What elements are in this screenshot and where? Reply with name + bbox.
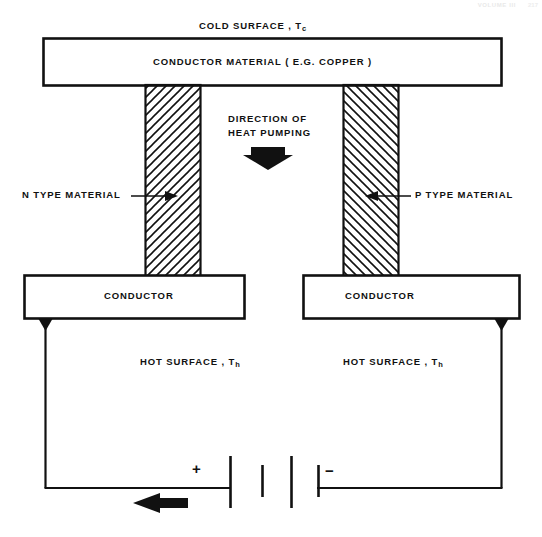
- thermoelectric-diagram: [0, 0, 542, 537]
- n-type-pillar: [145, 85, 201, 278]
- label-n-type-material: N TYPE MATERIAL: [22, 189, 121, 200]
- label-hot-surface-right: HOT SURFACE , Th: [343, 356, 443, 367]
- battery-symbol-icon: [231, 456, 319, 508]
- label-conductor-right: CONDUCTOR: [345, 290, 415, 301]
- label-conductor-left: CONDUCTOR: [104, 290, 174, 301]
- circuit-wiring: [45, 328, 503, 488]
- label-battery-negative: −: [325, 462, 334, 479]
- label-conductor-material: CONDUCTOR MATERIAL ( E.G. COPPER ): [153, 56, 372, 67]
- p-type-pillar: [343, 85, 399, 278]
- label-battery-positive: +: [192, 460, 201, 477]
- label-p-type-material: P TYPE MATERIAL: [415, 189, 513, 200]
- heat-pumping-arrow-icon: [243, 147, 293, 170]
- label-direction-of-heat-pumping-line2: HEAT PUMPING: [228, 127, 311, 138]
- label-hot-surface-left: HOT SURFACE , Th: [140, 356, 240, 367]
- label-direction-of-heat-pumping-line1: DIRECTION OF: [228, 113, 307, 124]
- current-flow-arrow-icon: [133, 493, 188, 513]
- label-cold-surface: COLD SURFACE , Tc: [199, 20, 306, 31]
- diagram-page: VOLUME III 217: [0, 0, 542, 537]
